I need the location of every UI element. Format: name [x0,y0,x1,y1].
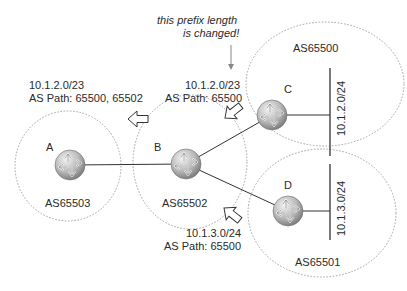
router-d-icon [273,196,303,226]
link-a-b [70,164,186,165]
bgp-aggregation-diagram: A B C D AS65503 AS65502 AS65500 AS65501 … [0,0,407,291]
router-b-label: B [154,141,161,153]
router-a-icon [55,150,85,180]
adv-d-path: AS Path: 65500 [164,240,241,252]
router-a-label: A [46,141,54,153]
annotation-arrowhead-icon [228,64,234,70]
annotation-line-2: is changed! [183,27,239,39]
adv-a-prefix: 10.1.2.0/23 [29,79,84,91]
adv-d-prefix: 10.1.3.0/24 [186,227,241,239]
adv-c-path: AS Path: 65500 [165,92,242,104]
arrow-b-to-a-icon [128,111,148,127]
as-label-d: AS65501 [295,256,340,268]
router-d-label: D [284,179,292,191]
as-label-c: AS65500 [293,42,338,54]
arrow-d-to-b-icon [219,202,245,227]
as-label-a: AS65503 [45,197,90,209]
adv-a-path: AS Path: 65500, 65502 [29,92,143,104]
network-label-c: 10.1.2.0/24 [335,81,347,136]
router-b-icon [171,149,201,179]
router-c-label: C [284,83,292,95]
annotation-line-1: this prefix length [157,14,237,26]
router-c-icon [257,100,287,130]
network-label-d: 10.1.3.0/24 [335,181,347,236]
adv-c-prefix: 10.1.2.0/23 [185,79,240,91]
as-label-b: AS65502 [162,197,207,209]
